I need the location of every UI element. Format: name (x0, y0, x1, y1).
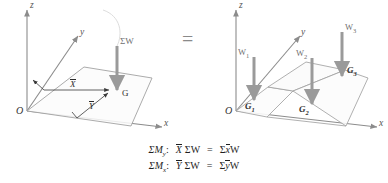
g1-subscript: 1 (252, 106, 255, 113)
g3-point-label: G3 (347, 66, 357, 77)
x-axis-label: x (379, 119, 383, 129)
eq2-lhs-bar: Y (176, 160, 182, 172)
eq1-rhs-w: W (230, 144, 239, 155)
equals-sign: = (182, 28, 193, 51)
centroid-G-label: G (122, 89, 129, 98)
sigma-w-force-label: ΣW (120, 37, 134, 46)
eq2-equals: = (207, 160, 213, 171)
eq1-colon: : (166, 144, 169, 155)
eq2-sigma-m: ΣM (149, 160, 163, 171)
eq2-moment-symbol: ΣMx (149, 160, 166, 171)
w1-subscript: 1 (246, 52, 249, 59)
eq2-rhs-w: W (230, 160, 239, 171)
z-axis-label: z (30, 1, 34, 11)
x-axis-label: x (164, 119, 168, 129)
moment-equation-x: ΣMx:YΣW=ΣyW (0, 160, 388, 174)
leader-arc (103, 10, 120, 46)
y-axis-label: y (301, 28, 305, 38)
statics-centroid-figure: z y x O ΣW G X Y = (0, 0, 388, 183)
x-bar-label: X (70, 79, 76, 89)
y-axis-label: y (80, 28, 84, 38)
resultant-weight-diagram: z y x O ΣW G X Y (0, 0, 178, 140)
origin-label: O (225, 106, 232, 116)
w2-letter: W (296, 48, 304, 58)
x-bar-leader (33, 80, 44, 90)
eq2-colon: : (166, 160, 169, 171)
w3-force-label: W3 (345, 23, 356, 34)
eq1-lhs-sum: ΣW (185, 144, 200, 155)
y-bar-label: Y (89, 101, 94, 111)
eq1-sigma-m: ΣM (149, 144, 163, 155)
eq1-lhs-bar: X (176, 144, 182, 156)
origin-label: O (16, 106, 23, 116)
eq2-lhs-sum: ΣW (185, 160, 200, 171)
left-diagram-graphics (0, 0, 178, 140)
x-bar-text: X (70, 79, 76, 89)
g2-point-label: G2 (299, 105, 309, 116)
z-axis-label: z (239, 1, 243, 11)
y-bar-text: Y (89, 101, 94, 111)
component-weights-diagram: z y x O W1 G1 W2 G2 W3 G3 (205, 0, 388, 140)
g2-subscript: 2 (306, 109, 309, 116)
w3-letter: W (345, 22, 353, 32)
moment-equations: ΣMy:XΣW=ΣxW ΣMx:YΣW=ΣyW (0, 140, 388, 183)
w3-subscript: 3 (353, 27, 356, 34)
w2-subscript: 2 (304, 53, 307, 60)
eq1-equals: = (207, 144, 213, 155)
g3-subscript: 3 (354, 70, 357, 77)
right-diagram-graphics (205, 0, 388, 140)
body-plate (27, 67, 152, 126)
g1-point-label: G1 (245, 102, 255, 113)
w1-force-label: W1 (238, 48, 249, 59)
moment-equation-y: ΣMy:XΣW=ΣxW (0, 144, 388, 158)
w2-force-label: W2 (296, 49, 307, 60)
eq1-moment-symbol: ΣMy (149, 144, 166, 155)
w1-letter: W (238, 47, 246, 57)
